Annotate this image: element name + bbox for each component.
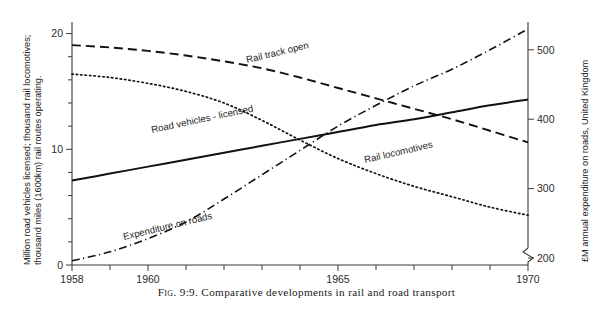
right-tick-label-500: 500 bbox=[537, 44, 555, 56]
x-axis-group: 1958196019651970 bbox=[60, 265, 540, 285]
right-axis-break-mark bbox=[523, 248, 533, 265]
figure-number: Fig. 9:9. bbox=[158, 286, 199, 298]
right-axis-ticks bbox=[528, 50, 534, 258]
figure-container: 01020 1958196019651970 200300400500 Rail… bbox=[0, 0, 613, 311]
right-axis-title: £M annual expenditure on roads, United K… bbox=[580, 59, 590, 262]
x-axis-tick-labels: 1958196019651970 bbox=[60, 273, 540, 285]
series-label-rail-locomotives: Rail locomotives bbox=[363, 138, 434, 164]
right-tick-label-200: 200 bbox=[537, 252, 555, 264]
axis-titles-group: Million road vehicles licensed; thousand… bbox=[22, 35, 590, 265]
right-tick-label-300: 300 bbox=[537, 182, 555, 194]
right-axis-tick-labels: 200300400500 bbox=[537, 44, 555, 264]
left-axis-title-line1: Million road vehicles licensed; thousand… bbox=[22, 35, 32, 265]
right-axis-group: 200300400500 bbox=[523, 22, 555, 265]
left-axis-tick-labels: 01020 bbox=[51, 27, 63, 270]
figure-caption-text: Comparative developments in rail and roa… bbox=[201, 286, 455, 298]
series-label-expenditure-on-roads: Expenditure on roads bbox=[122, 210, 213, 242]
chart-canvas: 01020 1958196019651970 200300400500 Rail… bbox=[0, 0, 613, 311]
x-tick-label-1960: 1960 bbox=[136, 273, 160, 285]
left-axis-group: 01020 bbox=[51, 22, 72, 271]
series-line-rail-track-open bbox=[72, 45, 528, 142]
x-tick-label-1965: 1965 bbox=[326, 273, 350, 285]
x-axis-ticks bbox=[72, 265, 528, 271]
x-tick-label-1958: 1958 bbox=[60, 273, 84, 285]
series-label-rail-track-open: Rail track open bbox=[245, 39, 310, 65]
series-line-rail-locomotives bbox=[72, 74, 528, 215]
left-tick-label-10: 10 bbox=[51, 143, 63, 155]
left-axis-ticks bbox=[66, 34, 72, 265]
x-tick-label-1970: 1970 bbox=[516, 273, 540, 285]
figure-caption: Fig. 9:9. Comparative developments in ra… bbox=[0, 286, 613, 298]
right-tick-label-400: 400 bbox=[537, 113, 555, 125]
left-axis-title-line2: thousand miles (1600km) rail routes oper… bbox=[33, 76, 43, 265]
series-labels-group: Rail track open Rail locomotives Road ve… bbox=[122, 39, 434, 242]
left-tick-label-20: 20 bbox=[51, 27, 63, 39]
series-label-road-vehicles-licensed: Road vehicles - licensed bbox=[150, 103, 254, 135]
left-tick-label-0: 0 bbox=[57, 259, 63, 271]
